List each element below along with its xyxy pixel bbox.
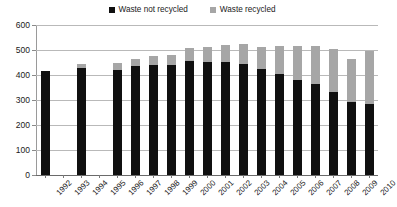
x-tick-label-1992: 1992	[55, 179, 73, 197]
x-tick-mark-1996	[117, 175, 118, 178]
x-tick-mark-2006	[297, 175, 298, 178]
x-tick-label-2002: 2002	[235, 179, 253, 197]
bar-segment-not-recycled-2010[interactable]	[365, 104, 374, 175]
legend-swatch-icon-waste-recycled	[210, 7, 216, 13]
legend-label-waste-not-recycled: Waste not recycled	[119, 6, 188, 14]
x-tick-mark-1993	[63, 175, 64, 178]
x-tick-label-2005: 2005	[289, 179, 307, 197]
bar-segment-recycled-2006[interactable]	[293, 46, 302, 80]
bar-group-1994[interactable]	[77, 64, 86, 175]
bar-segment-recycled-2009[interactable]	[347, 59, 356, 102]
bar-group-2010[interactable]	[365, 51, 374, 175]
bars-layer	[36, 25, 378, 175]
bar-group-2004[interactable]	[257, 47, 266, 176]
bar-group-1998[interactable]	[149, 56, 158, 176]
bar-segment-recycled-2008[interactable]	[329, 49, 338, 92]
x-tick-label-1994: 1994	[91, 179, 109, 197]
bar-segment-not-recycled-2000[interactable]	[185, 61, 194, 176]
x-tick-label-1997: 1997	[145, 179, 163, 197]
bar-segment-recycled-2007[interactable]	[311, 46, 320, 85]
bar-group-1999[interactable]	[167, 55, 176, 176]
x-tick-mark-1992	[45, 175, 46, 178]
legend-item-waste-not-recycled[interactable]: Waste not recycled	[109, 6, 188, 14]
x-tick-mark-2010	[369, 175, 370, 178]
bar-segment-not-recycled-1996[interactable]	[113, 70, 122, 175]
bar-segment-recycled-1999[interactable]	[167, 55, 176, 66]
bar-group-2000[interactable]	[185, 48, 194, 175]
bar-segment-not-recycled-1999[interactable]	[167, 65, 176, 175]
x-tick-label-2001: 2001	[217, 179, 235, 197]
bar-segment-not-recycled-2007[interactable]	[311, 84, 320, 175]
bar-segment-not-recycled-2006[interactable]	[293, 80, 302, 175]
x-tick-mark-1995	[99, 175, 100, 178]
bar-group-2009[interactable]	[347, 59, 356, 175]
bar-segment-not-recycled-2008[interactable]	[329, 92, 338, 175]
bar-segment-recycled-2000[interactable]	[185, 48, 194, 61]
x-tick-label-1996: 1996	[127, 179, 145, 197]
x-tick-label-2008: 2008	[343, 179, 361, 197]
bar-segment-not-recycled-2004[interactable]	[257, 69, 266, 175]
x-tick-mark-1999	[171, 175, 172, 178]
bar-segment-recycled-1996[interactable]	[113, 63, 122, 71]
y-tick-label-200: 200	[4, 121, 30, 130]
chart-legend: Waste not recycled Waste recycled	[0, 3, 384, 17]
x-tick-mark-2004	[261, 175, 262, 178]
bar-segment-not-recycled-1997[interactable]	[131, 66, 140, 175]
bar-segment-not-recycled-2003[interactable]	[239, 64, 248, 175]
bar-segment-not-recycled-1998[interactable]	[149, 65, 158, 175]
x-tick-label-2003: 2003	[253, 179, 271, 197]
x-axis-ticks: 1992199319941995199619971998199920002001…	[36, 176, 378, 207]
y-tick-label-400: 400	[4, 71, 30, 80]
bar-segment-recycled-1998[interactable]	[149, 56, 158, 66]
x-tick-mark-2008	[333, 175, 334, 178]
bar-group-1992[interactable]	[41, 71, 50, 175]
bar-segment-not-recycled-2005[interactable]	[275, 74, 284, 175]
legend-item-waste-recycled[interactable]: Waste recycled	[210, 6, 276, 14]
x-tick-label-2004: 2004	[271, 179, 289, 197]
x-tick-label-1998: 1998	[163, 179, 181, 197]
x-tick-label-1993: 1993	[73, 179, 91, 197]
bar-segment-not-recycled-2009[interactable]	[347, 102, 356, 175]
bar-segment-not-recycled-2002[interactable]	[221, 62, 230, 175]
bar-segment-recycled-2002[interactable]	[221, 45, 230, 62]
x-tick-label-2006: 2006	[307, 179, 325, 197]
y-tick-label-100: 100	[4, 146, 30, 155]
bar-group-2005[interactable]	[275, 46, 284, 175]
x-tick-label-2007: 2007	[325, 179, 343, 197]
x-tick-mark-2002	[225, 175, 226, 178]
bar-segment-recycled-2005[interactable]	[275, 46, 284, 75]
y-tick-label-600: 600	[4, 21, 30, 30]
bar-group-2006[interactable]	[293, 46, 302, 175]
bar-segment-not-recycled-1992[interactable]	[41, 71, 50, 175]
legend-label-waste-recycled: Waste recycled	[220, 6, 276, 14]
x-tick-label-2000: 2000	[199, 179, 217, 197]
bar-group-2002[interactable]	[221, 45, 230, 175]
x-tick-mark-2009	[351, 175, 352, 178]
bar-group-2007[interactable]	[311, 46, 320, 176]
bar-group-1997[interactable]	[131, 59, 140, 175]
bar-segment-recycled-1997[interactable]	[131, 59, 140, 67]
bar-segment-recycled-2004[interactable]	[257, 47, 266, 70]
x-tick-label-2009: 2009	[361, 179, 379, 197]
x-tick-mark-2007	[315, 175, 316, 178]
bar-group-1996[interactable]	[113, 63, 122, 176]
bar-segment-not-recycled-2001[interactable]	[203, 62, 212, 175]
legend-swatch-icon-waste-not-recycled	[109, 7, 115, 13]
bar-segment-not-recycled-1994[interactable]	[77, 68, 86, 176]
bar-segment-recycled-2010[interactable]	[365, 51, 374, 104]
x-tick-label-1999: 1999	[181, 179, 199, 197]
y-tick-label-0: 0	[4, 171, 30, 180]
y-tick-label-300: 300	[4, 96, 30, 105]
bar-group-2001[interactable]	[203, 47, 212, 175]
x-tick-mark-2003	[243, 175, 244, 178]
bar-group-2003[interactable]	[239, 44, 248, 175]
y-tick-label-500: 500	[4, 46, 30, 55]
x-tick-label-2010: 2010	[379, 179, 397, 197]
x-tick-mark-2001	[207, 175, 208, 178]
x-tick-label-1995: 1995	[109, 179, 127, 197]
bar-segment-recycled-2003[interactable]	[239, 44, 248, 65]
bar-group-2008[interactable]	[329, 49, 338, 175]
bar-segment-recycled-2001[interactable]	[203, 47, 212, 62]
x-tick-mark-1997	[135, 175, 136, 178]
